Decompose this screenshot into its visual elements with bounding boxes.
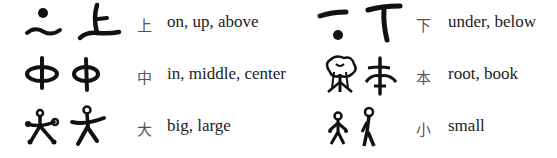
entry-xiao: 小 small xyxy=(300,104,557,154)
shang-ancient-glyphs-icon xyxy=(0,0,130,50)
entry-xia: 下 under, below xyxy=(300,0,557,50)
meaning-text: small xyxy=(448,116,485,136)
modern-character: 上 xyxy=(137,14,152,35)
meaning-text: root, book xyxy=(448,64,518,84)
entry-zhong: 中 in, middle, center xyxy=(0,52,280,102)
entry-ben: 本 root, book xyxy=(300,52,557,102)
modern-character: 中 xyxy=(137,66,152,87)
xia-ancient-glyphs-icon xyxy=(300,0,430,50)
modern-character: 下 xyxy=(416,14,431,35)
entry-shang: 上 on, up, above xyxy=(0,0,280,50)
xiao-ancient-glyphs-icon xyxy=(300,104,430,154)
zhong-ancient-glyphs-icon xyxy=(0,52,130,102)
modern-character: 大 xyxy=(137,118,152,139)
meaning-text: on, up, above xyxy=(167,12,259,32)
meaning-text: under, below xyxy=(448,12,536,32)
da-ancient-glyphs-icon xyxy=(0,104,130,154)
ben-ancient-glyphs-icon xyxy=(300,52,430,102)
modern-character: 本 xyxy=(416,66,431,87)
modern-character: 小 xyxy=(416,118,431,139)
meaning-text: big, large xyxy=(167,116,231,136)
meaning-text: in, middle, center xyxy=(167,64,286,84)
entry-da: 大 big, large xyxy=(0,104,280,154)
